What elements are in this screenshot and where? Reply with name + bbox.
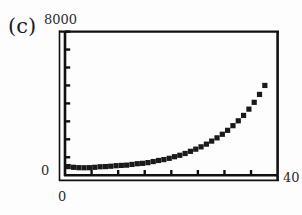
data-point (119, 163, 124, 168)
data-point (204, 142, 209, 147)
data-point (87, 165, 92, 170)
data-point (76, 165, 81, 170)
data-point (257, 92, 262, 97)
data-point (236, 118, 241, 123)
data-point (161, 157, 166, 162)
data-point (198, 144, 203, 149)
data-point (193, 147, 198, 152)
data-point (230, 123, 235, 128)
data-point (262, 83, 267, 88)
data-point (209, 139, 214, 144)
data-point-group (66, 83, 268, 170)
data-point (124, 163, 129, 168)
data-point (225, 128, 230, 133)
data-point (129, 162, 134, 167)
plot-area (58, 30, 280, 182)
data-point (241, 113, 246, 118)
data-point (177, 153, 182, 158)
data-point (246, 107, 251, 112)
chart-figure: (c) 8000 0 0 40 (0, 0, 302, 215)
data-point (167, 156, 172, 161)
data-point (97, 164, 102, 169)
data-point (214, 135, 219, 140)
y-axis-max-label: 8000 (44, 12, 77, 27)
data-point (156, 158, 161, 163)
data-point (103, 164, 108, 169)
data-point (66, 164, 71, 169)
data-point (92, 165, 97, 170)
data-point (220, 132, 225, 137)
data-point (113, 163, 118, 168)
data-point (82, 165, 87, 170)
data-point (172, 154, 177, 159)
data-point (145, 160, 150, 165)
data-point (151, 159, 156, 164)
panel-label: (c) (8, 14, 36, 38)
data-point (135, 161, 140, 166)
data-point (183, 151, 188, 156)
scatter-plot-svg (58, 30, 280, 182)
data-point (140, 161, 145, 166)
x-axis-max-label: 40 (283, 170, 300, 185)
y-axis-min-label: 0 (41, 163, 49, 178)
data-point (188, 149, 193, 154)
data-point (108, 164, 113, 169)
x-axis-min-label: 0 (58, 189, 66, 204)
data-point (71, 165, 76, 170)
data-point (252, 100, 257, 105)
